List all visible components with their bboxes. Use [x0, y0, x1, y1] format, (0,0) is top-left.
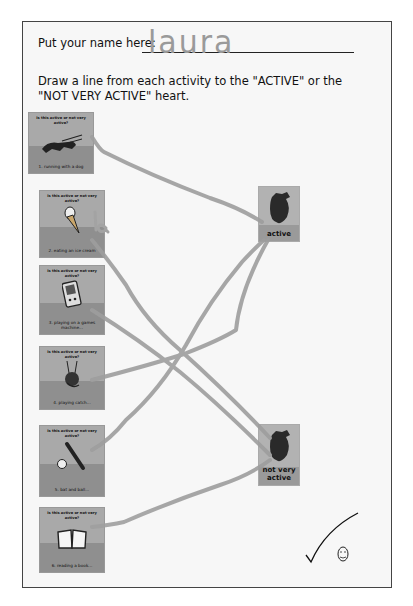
smiley-face-icon — [0, 0, 413, 606]
